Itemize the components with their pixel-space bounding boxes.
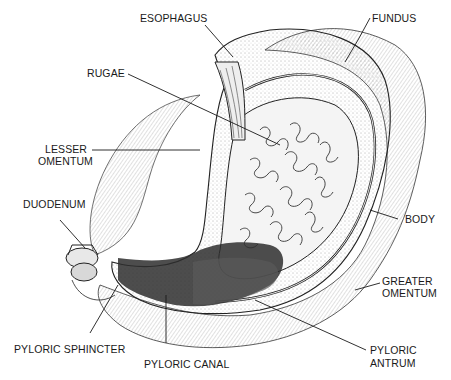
label-duodenum: DUODENUM bbox=[23, 199, 86, 210]
label-fundus: FUNDUS bbox=[372, 13, 416, 24]
label-body: BODY bbox=[405, 214, 435, 225]
label-pyloric-canal: PYLORIC CANAL bbox=[144, 359, 229, 370]
label-lesser-omentum-line2: OMENTUM bbox=[38, 156, 93, 167]
stomach-illustration bbox=[0, 0, 451, 380]
label-pyloric-sphincter: PYLORIC SPHINCTER bbox=[14, 344, 125, 355]
label-rugae: RUGAE bbox=[87, 68, 125, 79]
label-greater-omentum-line2: OMENTUM bbox=[382, 288, 437, 299]
label-lesser-omentum-line1: LESSER bbox=[45, 144, 87, 155]
lesser-omentum-membrane bbox=[90, 95, 200, 255]
label-greater-omentum-line1: GREATER bbox=[382, 276, 433, 287]
label-pyloric-antrum-line1: PYLORIC bbox=[370, 345, 417, 356]
label-esophagus: ESOPHAGUS bbox=[140, 13, 207, 24]
label-pyloric-antrum-line2: ANTRUM bbox=[370, 358, 416, 369]
